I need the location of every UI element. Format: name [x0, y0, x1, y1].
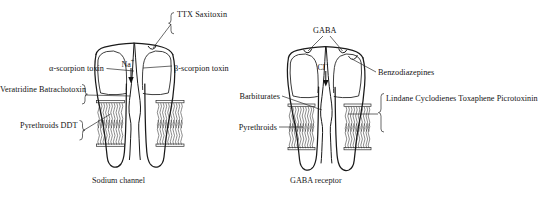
sodium-right-subunit: [142, 51, 171, 90]
leader-barbiturates: [282, 96, 322, 110]
chloride-ion-label: Cl−: [318, 61, 329, 72]
gaba-receptor-drawing: [279, 36, 384, 171]
brace-pyrethroids-ddt: [80, 121, 85, 141]
caption-gaba-receptor: GABA receptor: [290, 176, 342, 185]
sodium-pore-right: [135, 44, 141, 161]
membrane-left-sodium: [97, 101, 125, 147]
sodium-left-subunit-base: [101, 93, 127, 95]
brace-ttx: [169, 13, 174, 34]
label-gaba: GABA: [313, 26, 336, 35]
label-beta-scorpion-toxin: β-scorpion toxin: [174, 64, 229, 73]
brace-lindane-group: [378, 94, 384, 133]
leader-ttx: [153, 24, 171, 48]
label-lindane-group: Lindane Cyclodienes Toxaphene Picrotoxin…: [386, 94, 538, 103]
membrane-right-gaba: [344, 104, 371, 150]
label-ttx: TTX Saxitoxin: [177, 10, 227, 19]
leader-alpha-scorpion: [107, 69, 135, 72]
gaba-left-subunit: [290, 54, 318, 93]
membrane-right-sodium: [156, 101, 184, 147]
label-veratridine-batrachotoxin: Veratridine Batrachotoxin: [0, 85, 80, 94]
label-benzodiazepines: Benzodiazepines: [378, 68, 434, 77]
label-alpha-scorpion-toxin: α-scorpion toxin: [0, 64, 104, 73]
label-pyrethroids-gaba: Pyrethroids: [190, 123, 277, 132]
label-pyrethroids-ddt: Pyrethroids DDT: [0, 121, 78, 130]
leader-veratridine: [85, 95, 131, 96]
channel-left-wall-gaba: [289, 47, 326, 58]
leader-gaba-right: [330, 36, 343, 51]
gaba-right-subunit: [333, 54, 361, 93]
sodium-ion-label: Na+: [122, 58, 135, 69]
label-barbiturates: Barbiturates: [190, 92, 280, 101]
leader-gaba-left: [308, 36, 323, 51]
leader-beta-scorpion: [143, 66, 172, 68]
sodium-right-leg: [145, 55, 175, 168]
caption-sodium-channel: Sodium channel: [92, 176, 145, 185]
channel-left-wall-sodium: [96, 43, 134, 54]
sodium-channel-drawing: [80, 13, 185, 168]
